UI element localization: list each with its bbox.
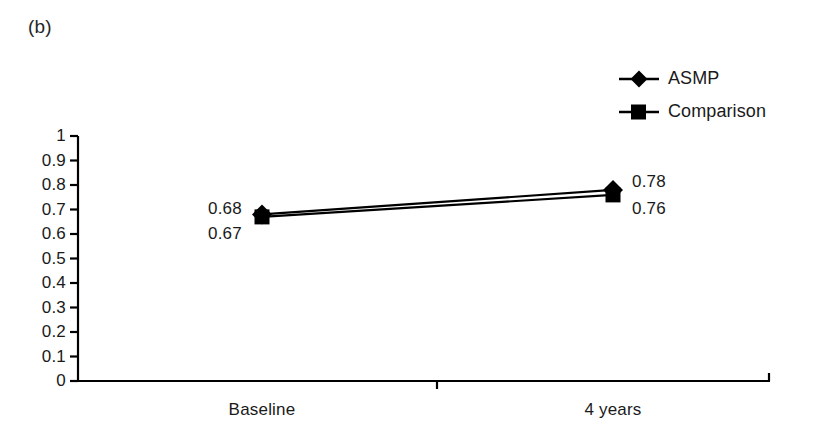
data-label-comparison-baseline: 0.67: [208, 224, 242, 244]
plot-canvas: [0, 0, 836, 439]
y-tick-label-0-1: 0.1: [16, 347, 66, 367]
y-tick-label-0-4: 0.4: [16, 273, 66, 293]
series-line-asmp: [262, 190, 613, 215]
y-tick-label-0: 0: [16, 371, 66, 391]
y-tick-label-1: 1: [16, 126, 66, 146]
y-tick-label-0-3: 0.3: [16, 298, 66, 318]
y-axis-ticks: [70, 136, 78, 381]
x-tick-label-4-years: 4 years: [584, 400, 641, 420]
y-tick-label-0-5: 0.5: [16, 249, 66, 269]
figure-panel-b: (b) ASMP Comparison: [0, 0, 836, 439]
data-label-asmp-4years: 0.78: [632, 172, 666, 192]
plot-area: 1 0.9 0.8 0.7 0.6 0.5 0.4 0.3 0.2 0.1 0 …: [0, 0, 836, 439]
data-label-asmp-baseline: 0.68: [208, 199, 242, 219]
y-tick-label-0-7: 0.7: [16, 200, 66, 220]
series-line-comparison: [262, 195, 613, 217]
y-tick-label-0-8: 0.8: [16, 175, 66, 195]
y-tick-label-0-9: 0.9: [16, 151, 66, 171]
y-tick-label-0-6: 0.6: [16, 224, 66, 244]
y-tick-label-0-2: 0.2: [16, 322, 66, 342]
x-tick-label-baseline: Baseline: [229, 400, 296, 420]
data-label-comparison-4years: 0.76: [632, 199, 666, 219]
